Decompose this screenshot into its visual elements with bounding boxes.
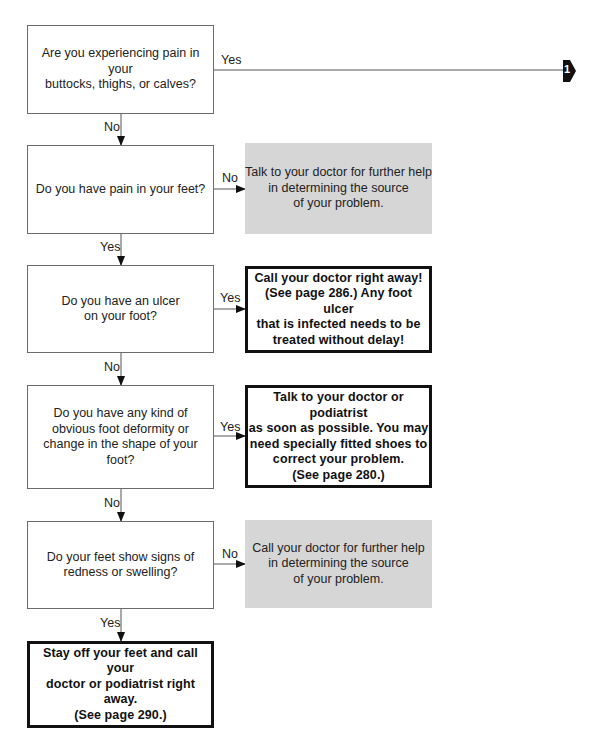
- label-q4-yes: Yes: [220, 420, 240, 434]
- question-text: Are you experiencing pain in your buttoc…: [28, 46, 213, 93]
- continuation-marker-label: 1: [564, 63, 570, 75]
- label-q3-yes: Yes: [220, 291, 240, 305]
- question-pain-feet: Do you have pain in your feet?: [27, 145, 214, 234]
- question-text: Do you have pain in your feet?: [36, 182, 206, 198]
- outcome-text: Call your doctor right away! (See page 2…: [248, 271, 429, 349]
- question-text: Do your feet show signs of redness or sw…: [47, 550, 194, 581]
- outcome-text: Talk to your doctor or podiatrist as soo…: [248, 390, 429, 483]
- label-q2-yes: Yes: [100, 240, 120, 254]
- question-deformity: Do you have any kind of obvious foot def…: [27, 385, 214, 489]
- outcome-talk-to-doctor: Talk to your doctor for further help in …: [245, 143, 432, 234]
- question-redness: Do your feet show signs of redness or sw…: [27, 521, 214, 609]
- label-q5-no: No: [222, 547, 238, 561]
- label-q1-no: No: [104, 120, 120, 134]
- label-q5-yes: Yes: [100, 616, 120, 630]
- outcome-text: Call your doctor for further help in det…: [252, 541, 424, 588]
- question-text: Do you have an ulcer on your foot?: [61, 294, 179, 325]
- outcome-text: Stay off your feet and call your doctor …: [30, 646, 211, 724]
- label-q4-no: No: [104, 496, 120, 510]
- question-text: Do you have any kind of obvious foot def…: [28, 406, 213, 468]
- label-q2-no: No: [222, 171, 238, 185]
- outcome-call-doctor-ulcer: Call your doctor right away! (See page 2…: [245, 266, 432, 353]
- outcome-call-doctor-help: Call your doctor for further help in det…: [245, 520, 432, 608]
- question-pain-buttocks: Are you experiencing pain in your buttoc…: [27, 25, 214, 114]
- outcome-stay-off-feet: Stay off your feet and call your doctor …: [27, 641, 214, 728]
- label-q1-yes: Yes: [221, 53, 241, 67]
- label-q3-no: No: [104, 360, 120, 374]
- outcome-podiatrist-shoes: Talk to your doctor or podiatrist as soo…: [245, 385, 432, 488]
- outcome-text: Talk to your doctor for further help in …: [245, 165, 432, 212]
- question-ulcer: Do you have an ulcer on your foot?: [27, 265, 214, 353]
